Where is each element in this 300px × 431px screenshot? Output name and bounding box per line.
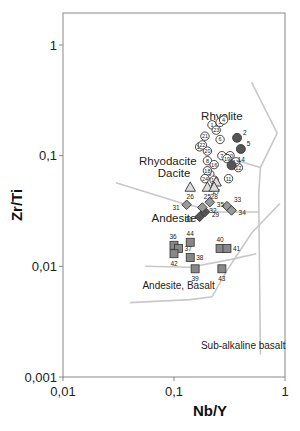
point-label: 4 — [222, 117, 225, 123]
field-label-sub-alkaline-basalt: Sub-alkaline basalt — [201, 340, 286, 351]
data-point: 2 — [233, 129, 248, 143]
chart: 0,010,110,0010,010,11 RhyoliteRhyodacite… — [0, 0, 300, 431]
data-point: 11 — [224, 174, 232, 182]
point-label: 34 — [239, 209, 247, 216]
y-tick-label: 0,01 — [32, 259, 57, 274]
data-point: 18 — [203, 167, 211, 175]
y-tick-label: 0,001 — [24, 370, 57, 385]
point-label: 39 — [192, 275, 200, 282]
point-label: 2 — [243, 129, 247, 136]
plot-frame — [63, 13, 285, 377]
data-point: 21 — [201, 132, 209, 140]
square-marker — [218, 265, 226, 273]
square-marker — [186, 238, 194, 246]
data-point: 38 — [186, 254, 204, 262]
point-label: 33 — [234, 196, 242, 203]
square-marker — [186, 254, 194, 262]
square-marker — [191, 265, 199, 273]
point-label: 11 — [226, 176, 232, 182]
data-point: 39 — [191, 265, 199, 282]
plot-area-border — [63, 13, 285, 377]
point-label: 35 — [217, 201, 225, 208]
point-label: 8 — [206, 158, 209, 164]
point-label: 19 — [224, 156, 230, 162]
data-point: 22 — [198, 141, 206, 149]
data-point: 4 — [219, 116, 227, 124]
data-point: 23 — [212, 126, 220, 134]
field-label-dacite: Dacite — [158, 167, 191, 179]
triangle-marker — [185, 182, 195, 191]
point-label: 36 — [169, 233, 177, 240]
y-tick-label: 0,1 — [39, 148, 57, 163]
point-label: 30 — [185, 216, 193, 223]
square-marker — [223, 244, 231, 252]
field-labels: RhyoliteRhyodaciteDaciteAndesiteAndesite… — [139, 110, 286, 351]
point-label: 24 — [202, 176, 208, 182]
data-point: 34 — [227, 206, 246, 217]
point-label: 16 — [211, 162, 217, 168]
data-point: 42 — [170, 250, 178, 267]
data-point: 41 — [223, 244, 241, 252]
point-label: 40 — [216, 236, 224, 243]
boundary-trachyandesite-right — [259, 168, 261, 355]
point-label: 44 — [187, 230, 195, 237]
filled-circle-marker — [227, 161, 236, 170]
data-point: 16 — [210, 160, 218, 168]
point-label: 14 — [238, 156, 246, 163]
point-label: 26 — [187, 193, 195, 200]
y-axis-title: Zr/Ti — [8, 189, 25, 221]
point-label: 23 — [213, 127, 219, 133]
point-label: 31 — [172, 204, 180, 211]
point-label: 5 — [247, 140, 251, 147]
x-tick-label: 0,1 — [165, 384, 183, 399]
data-point: 24 — [201, 174, 209, 182]
field-label-andesite-basalt: Andesite, Basalt — [142, 280, 214, 291]
square-marker — [170, 250, 178, 258]
data-point: 6 — [216, 135, 224, 143]
filled-circle-marker — [233, 133, 242, 142]
point-label: 41 — [233, 245, 241, 252]
point-label: 38 — [196, 254, 204, 261]
field-label-rhyodacite: Rhyodacite — [139, 155, 197, 167]
x-tick-label: 1 — [281, 384, 288, 399]
x-tick-label: 0,01 — [50, 384, 75, 399]
point-label: 20 — [204, 148, 210, 154]
x-axis-title: Nb/Y — [193, 402, 227, 419]
point-label: 6 — [219, 136, 222, 142]
y-tick-label: 1 — [50, 38, 57, 53]
point-label: 21 — [202, 133, 208, 139]
boundary-rhyolite-upper — [252, 82, 278, 133]
point-label: 22 — [199, 142, 205, 148]
point-label: 18 — [204, 168, 210, 174]
data-point: 44 — [186, 230, 194, 246]
point-label: 42 — [170, 260, 178, 267]
boundary-rhyolite-comendite — [260, 133, 277, 168]
data-point: 26 — [185, 182, 195, 200]
diamond-marker — [182, 200, 192, 210]
point-label: 43 — [218, 275, 226, 282]
filled-circle-marker — [236, 144, 245, 153]
